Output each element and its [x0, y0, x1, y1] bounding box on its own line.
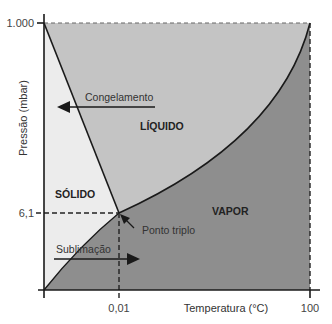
x-tick-label-100: 100: [301, 302, 319, 314]
liquid-label: LÍQUIDO: [140, 120, 184, 132]
solid-label: SÓLIDO: [55, 188, 95, 200]
vapor-label: VAPOR: [212, 205, 249, 217]
x-tick-label-0-01: 0,01: [108, 302, 129, 314]
y-tick-label-1000: 1.000: [6, 17, 34, 29]
triple-point-label: Ponto triplo: [142, 224, 195, 236]
x-axis-label: Temperatura (°C): [184, 302, 268, 314]
y-tick-label-6-1: 6,1: [19, 207, 34, 219]
sublimation-label: Sublimação: [56, 243, 111, 255]
phase-diagram: 1.000 6,1 0,01 100 Temperatura (°C) Pres…: [0, 0, 332, 324]
y-axis-label: Pressão (mbar): [17, 80, 29, 156]
freezing-label: Congelamento: [85, 91, 153, 103]
